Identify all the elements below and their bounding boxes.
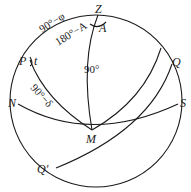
celestial-sphere-diagram: Z A P t N S Q M Q' 90°−φ 180°−A 90° 90°−… [0, 0, 191, 192]
sphere-outline [10, 15, 182, 187]
arc-M-upper-right [92, 48, 161, 130]
label-S: S [180, 96, 186, 110]
label-P: P [18, 54, 27, 68]
label-M: M [85, 132, 97, 146]
horizon-arc [18, 104, 178, 125]
label-A: A [98, 21, 107, 35]
label-Q: Q [172, 55, 181, 69]
label-Z: Z [95, 2, 102, 16]
label-arc-PM: 90°−δ [29, 81, 56, 109]
label-Q-prime: Q' [37, 162, 49, 176]
label-arc-ZM: 90° [84, 63, 99, 75]
label-N: N [7, 96, 17, 110]
label-t: t [34, 54, 38, 68]
